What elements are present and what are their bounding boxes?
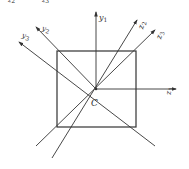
label-z2: z2 <box>136 20 147 31</box>
axis-y3 <box>19 42 155 146</box>
label-y3: y3 <box>20 31 31 42</box>
label-y1: y1 <box>98 13 107 23</box>
cross-section-diagram: C y1 z1 z2 z3 y2 y3 z2 z3 <box>0 0 189 169</box>
centroid-point <box>95 88 98 91</box>
label-z1: z1 <box>164 87 174 96</box>
top-cut-label-2: z3 <box>41 0 49 4</box>
label-z3: z3 <box>154 30 165 41</box>
top-cut-label-1: z2 <box>7 0 15 4</box>
label-y2: y2 <box>40 24 51 35</box>
axis-y2 <box>36 27 96 89</box>
center-label: C <box>91 98 98 108</box>
